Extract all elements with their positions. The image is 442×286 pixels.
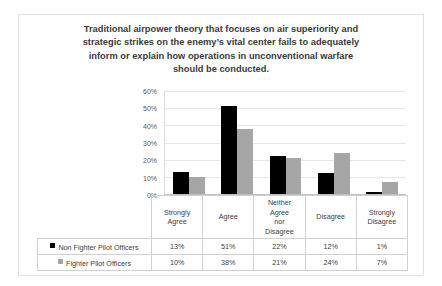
y-axis-tick-label: 20% [143, 157, 157, 164]
bar-series-0 [366, 192, 382, 194]
table-value-cell: 13% [152, 239, 203, 255]
legend-item-series-1: Fighter Pilot Officers [38, 255, 152, 271]
legend-label-series-0: Non Fighter Pilot Officers [58, 242, 138, 251]
y-axis: 0%10%20%30%40%50%60% [134, 91, 160, 195]
bar-series-0 [270, 156, 286, 194]
bar-series-1 [382, 182, 398, 194]
table-value-cell: 51% [203, 239, 254, 255]
category-header-cell: StronglyDisagree [356, 196, 407, 239]
category-header-line: Agree [152, 217, 202, 227]
y-axis-tick-label: 40% [143, 122, 157, 129]
chart-title-line-3: inform or explain how operations in unco… [41, 50, 401, 63]
plot-area [164, 91, 406, 195]
category-header-line: Disagree [306, 212, 356, 222]
chart-container: Traditional airpower theory that focuses… [18, 14, 424, 276]
bar-series-0 [173, 172, 189, 194]
bar-series-0 [221, 106, 237, 194]
chart-title-line-2: strategic strikes on the enemy’s vital c… [41, 36, 401, 49]
category-header-line: Disagree [254, 227, 304, 237]
table-value-cell: 7% [356, 255, 407, 271]
bar-series-1 [189, 177, 205, 194]
table-value-cell: 24% [305, 255, 356, 271]
y-axis-tick-label: 10% [143, 174, 157, 181]
legend-item-series-0: Non Fighter Pilot Officers [38, 239, 152, 255]
bar-group [261, 91, 309, 194]
legend-label-series-1: Fighter Pilot Officers [66, 258, 131, 267]
chart-title: Traditional airpower theory that focuses… [41, 23, 401, 77]
y-axis-tick-label: 50% [143, 105, 157, 112]
table-value-cell: 38% [203, 255, 254, 271]
category-header-line: Agree [203, 212, 253, 222]
table-value-cell: 12% [305, 239, 356, 255]
bar-group [358, 91, 406, 194]
category-header-line: Strongly [152, 208, 202, 218]
bar-group [213, 91, 261, 194]
table-value-cell: 21% [254, 255, 305, 271]
bar-group [165, 91, 213, 194]
category-header-line: Disagree [357, 217, 407, 227]
bar-series-1 [237, 129, 253, 194]
category-header-line: Agree [254, 208, 304, 218]
table-value-cell: 1% [356, 239, 407, 255]
legend-swatch-icon-series-1 [58, 259, 63, 264]
table-value-cell: 10% [152, 255, 203, 271]
chart-title-line-1: Traditional airpower theory that focuses… [41, 23, 401, 36]
category-header-line: Strongly [357, 208, 407, 218]
category-header-cell: Agree [203, 196, 254, 239]
category-header-line: Neither [254, 198, 304, 208]
y-axis-tick-label: 60% [143, 88, 157, 95]
legend-swatch-icon-series-0 [50, 243, 55, 248]
category-header-line: nor [254, 217, 304, 227]
plot-region: 0%10%20%30%40%50%60% [134, 91, 406, 195]
bar-group [310, 91, 358, 194]
table-value-cell: 22% [254, 239, 305, 255]
bar-series-1 [286, 158, 302, 194]
y-axis-tick-label: 30% [143, 140, 157, 147]
data-table: StronglyAgreeAgreeNeitherAgreenorDisagre… [37, 195, 408, 271]
bar-groups [165, 91, 406, 194]
table-row-categories: StronglyAgreeAgreeNeitherAgreenorDisagre… [38, 196, 408, 239]
table-row-series-0: Non Fighter Pilot Officers 13%51%22%12%1… [38, 239, 408, 255]
category-header-cell: NeitherAgreenorDisagree [254, 196, 305, 239]
bar-series-1 [334, 153, 350, 194]
category-header-cell: StronglyAgree [152, 196, 203, 239]
chart-title-line-4: should be conducted. [41, 63, 401, 76]
bar-series-0 [318, 173, 334, 194]
table-corner-cell [38, 196, 152, 239]
table-row-series-1: Fighter Pilot Officers 10%38%21%24%7% [38, 255, 408, 271]
category-header-cell: Disagree [305, 196, 356, 239]
